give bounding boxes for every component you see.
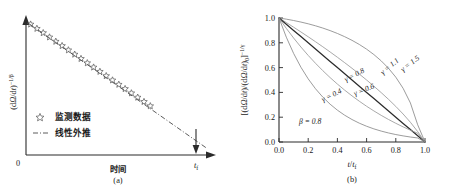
panel-a-y-axis-label: (dΩ/dt)−1/β (8, 74, 18, 110)
panel-a-tf-label: tf (194, 161, 198, 171)
panel-a-caption: (a) (113, 176, 123, 185)
panel-a-y-axis (22, 15, 29, 155)
svg-text:1.0: 1.0 (265, 14, 275, 23)
panel-b-y-ticks (279, 18, 283, 142)
figure-root: (dΩ/dt)−1/β 0 tf 时间 (a) 监测数据 (0, 0, 462, 186)
svg-text:(dΩ/dt)−1/β: (dΩ/dt)−1/β (8, 74, 18, 110)
svg-text:[(dΩ/dt)/(dΩ/dt)0]−1/γ: [(dΩ/dt)/(dΩ/dt)0]−1/γ (239, 44, 250, 115)
panel-b-plot: 0.0 0.2 0.4 0.6 0.8 1.0 0.0 0.2 0.4 0.6 … (231, 0, 462, 186)
panel-b-x-ticks (279, 138, 425, 142)
legend-label-monitoring-data: 监测数据 (55, 111, 91, 122)
panel-a-x-axis-label: 时间 (110, 164, 126, 174)
svg-text:1.0: 1.0 (420, 146, 430, 155)
svg-text:0.2: 0.2 (303, 146, 313, 155)
svg-text:0.6: 0.6 (361, 146, 371, 155)
svg-text:0.8: 0.8 (391, 146, 401, 155)
legend-label-linear-extrapolation: 线性外推 (55, 127, 91, 138)
panel-a-legend: 监测数据 线性外推 (33, 111, 91, 138)
panel-a-x-axis (26, 151, 216, 158)
panel-a-tf-arrow-icon (193, 129, 200, 154)
curve-label-gamma-1-1: γ = 1.1 (379, 56, 401, 77)
legend-star-open-marker (36, 113, 44, 120)
panel-b-y-tick-labels: 0.0 0.2 0.4 0.6 0.8 1.0 (265, 14, 275, 147)
panel-b-caption: (b) (347, 175, 357, 184)
svg-text:0.6: 0.6 (265, 64, 275, 73)
curve-label-gamma-1-5: γ = 1.5 (399, 53, 422, 73)
panel-b-y-axis-label: [(dΩ/dt)/(dΩ/dt)0]−1/γ (239, 44, 250, 115)
svg-text:0.0: 0.0 (274, 146, 284, 155)
curve-label-gamma-0-8: γ = 0.8 (343, 66, 366, 84)
panel-b-beta-annotation: β = 0.8 (298, 117, 321, 126)
panel-b-x-axis-label: t/tf (348, 160, 357, 170)
panel-a-data-markers (27, 21, 153, 109)
svg-text:0.8: 0.8 (265, 39, 275, 48)
panel-a-origin-label: 0 (16, 159, 20, 168)
panel-b: 0.0 0.2 0.4 0.6 0.8 1.0 0.0 0.2 0.4 0.6 … (231, 0, 462, 186)
panel-b-x-tick-labels: 0.0 0.2 0.4 0.6 0.8 1.0 (274, 146, 430, 155)
panel-a-plot: (dΩ/dt)−1/β 0 tf 时间 (a) 监测数据 (0, 0, 231, 186)
curve-label-gamma-0-4: γ = 0.4 (320, 86, 343, 104)
svg-text:0.2: 0.2 (265, 113, 275, 122)
svg-text:0.4: 0.4 (265, 88, 275, 97)
panel-a: (dΩ/dt)−1/β 0 tf 时间 (a) 监测数据 (0, 0, 231, 186)
svg-text:0.4: 0.4 (332, 146, 342, 155)
